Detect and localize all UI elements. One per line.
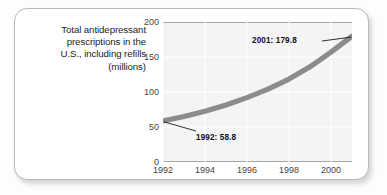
y-axis-tick-label: 100 <box>135 87 159 97</box>
x-axis-tick-label: 1992 <box>153 165 173 175</box>
y-axis-tick-label: 50 <box>135 122 159 132</box>
caption-line: (millions) <box>24 61 146 73</box>
caption-line: prescriptions in the <box>24 36 146 48</box>
chart-figure: Total antidepressant prescriptions in th… <box>0 0 387 195</box>
x-axis-labels: 19921994199619982000 <box>163 165 352 179</box>
annotation-start: 1992: 58.8 <box>196 133 236 142</box>
data-series <box>163 36 352 121</box>
chart-caption: Total antidepressant prescriptions in th… <box>24 24 146 73</box>
x-axis-tick-label: 1996 <box>237 165 257 175</box>
y-axis-tick-label: 150 <box>135 52 159 62</box>
caption-line: U.S., including refills <box>24 48 146 60</box>
x-axis-tick-label: 2000 <box>321 165 341 175</box>
series-line <box>163 36 352 121</box>
x-axis-tick-label: 1998 <box>279 165 299 175</box>
y-axis-labels: 050100150200 <box>133 22 159 162</box>
x-axis-tick-label: 1994 <box>195 165 215 175</box>
y-axis-tick-label: 200 <box>135 17 159 27</box>
annotation-end: 2001: 179.8 <box>252 36 297 45</box>
caption-line: Total antidepressant <box>24 24 146 36</box>
